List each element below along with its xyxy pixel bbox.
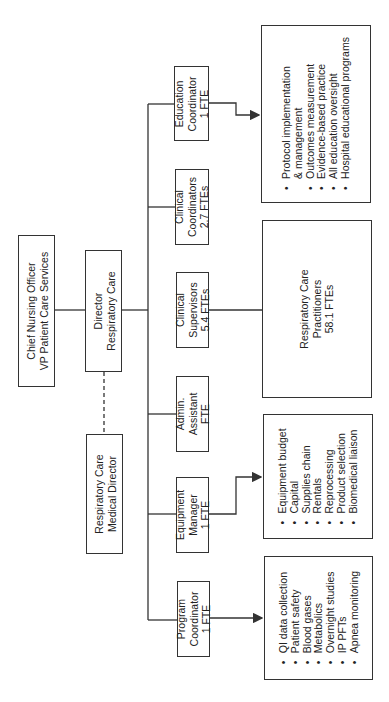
node-line: VP Patient Care Services	[37, 252, 50, 370]
education-responsibilities-box: Protocol implementation & management Out…	[261, 25, 371, 203]
node-line: FTE	[199, 393, 212, 436]
node-line: 2.7 FTEs	[198, 177, 211, 237]
node-line: Chief Nursing Officer	[24, 252, 37, 370]
node-label: Respiratory Care Medical Director	[92, 454, 117, 533]
node-label: Equipment Manager 1 FTE	[174, 490, 212, 540]
node-clinical-coordinators: Clinical Coordinators 2.7 FTEs	[175, 169, 209, 245]
node-line: Manager	[186, 490, 199, 540]
list-item: Blood gases	[301, 571, 313, 665]
responsibility-list: Protocol implementation & management Out…	[281, 37, 352, 191]
node-line: Assistant	[186, 393, 199, 436]
list-item: Overnight studies	[324, 571, 336, 665]
list-item: Biomedical liaison	[347, 428, 359, 525]
equipment-responsibilities-box: Equipment budget Capital Supplies chain …	[263, 414, 373, 539]
node-line: Admin.	[174, 393, 187, 436]
node-line: 1 FTE	[200, 592, 213, 647]
list-item: Patient safety	[289, 571, 301, 665]
node-line: Respiratory Care	[298, 269, 311, 348]
node-line: 58.1 FTEs	[323, 269, 336, 348]
node-line: Supervisors	[186, 282, 199, 337]
node-label: Clinical Supervisors 5.4 FTEs	[174, 282, 212, 337]
node-equipment-manager: Equipment Manager 1 FTE	[176, 477, 209, 553]
node-label: Director Respiratory Care	[91, 271, 116, 350]
node-label: Education Coordinator 1 FTE	[173, 76, 211, 131]
node-line: 1 FTE	[199, 490, 212, 540]
node-respiratory-care-practitioners: Respiratory Care Practitioners 58.1 FTEs	[262, 220, 372, 398]
node-label: Clinical Coordinators 2.7 FTEs	[173, 177, 211, 237]
responsibility-list: Equipment budget Capital Supplies chain …	[277, 428, 360, 525]
node-line: Program	[175, 592, 188, 647]
list-item: Metabolics	[313, 571, 325, 665]
list-item: & management	[292, 37, 304, 191]
node-education-coordinator: Education Coordinator 1 FTE	[174, 66, 209, 141]
list-item: Apnea monitoring	[348, 571, 360, 665]
node-label: Admin. Assistant FTE	[174, 393, 212, 436]
node-line: Clinical	[174, 282, 187, 337]
node-label: Program Coordinator 1 FTE	[175, 592, 213, 647]
list-item: QI data collection	[277, 571, 289, 665]
node-medical-director: Respiratory Care Medical Director	[86, 434, 123, 554]
node-program-coordinator: Program Coordinator 1 FTE	[177, 581, 210, 657]
node-label: Chief Nursing Officer VP Patient Care Se…	[24, 252, 49, 370]
node-line: 5.4 FTEs	[199, 282, 212, 337]
node-line: Respiratory Care	[104, 271, 117, 350]
node-line: Director	[91, 271, 104, 350]
node-clinical-supervisors: Clinical Supervisors 5.4 FTEs	[176, 272, 209, 348]
program-responsibilities-box: QI data collection Patient safety Blood …	[264, 556, 373, 680]
node-line: Equipment	[174, 490, 187, 540]
list-item: Hospital educational programs	[340, 37, 352, 191]
node-director-respiratory-care: Director Respiratory Care	[85, 250, 122, 372]
node-line: Coordinator	[185, 76, 198, 131]
node-line: 1 FTE	[198, 76, 211, 131]
node-line: Respiratory Care	[92, 454, 105, 533]
node-label: Respiratory Care Practitioners 58.1 FTEs	[298, 269, 336, 348]
node-admin-assistant: Admin. Assistant FTE	[176, 376, 209, 452]
node-line: Coordinator	[187, 592, 200, 647]
list-item: IP PFTs	[336, 571, 348, 665]
list-item: Capital	[289, 428, 301, 525]
node-line: Clinical	[173, 177, 186, 237]
node-line: Coordinators	[186, 177, 199, 237]
responsibility-list: QI data collection Patient safety Blood …	[277, 571, 360, 665]
node-line: Medical Director	[105, 454, 118, 533]
node-line: Practitioners	[311, 269, 324, 348]
node-chief-nursing-officer: Chief Nursing Officer VP Patient Care Se…	[18, 235, 55, 387]
node-line: Education	[173, 76, 186, 131]
